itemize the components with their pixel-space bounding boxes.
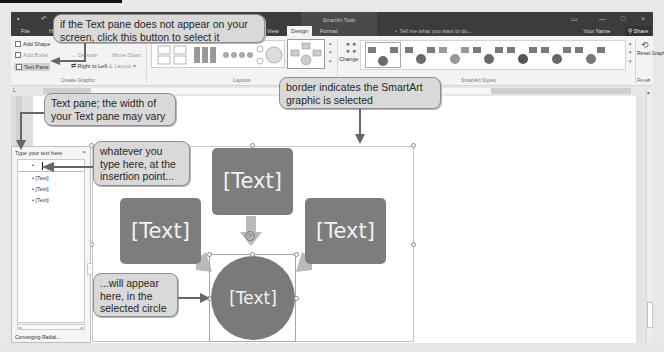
- callout-text-pane-width: Text pane; the width of your Text pane m…: [44, 93, 176, 126]
- callout-appear-here: ...will appear here, in the selected cir…: [93, 273, 178, 317]
- layouts-scroll[interactable]: ▴▾▾: [327, 39, 333, 66]
- scroll-up-icon[interactable]: ▴: [647, 89, 650, 95]
- layouts-gallery[interactable]: [151, 40, 285, 68]
- top-strip: [0, 0, 664, 10]
- right-to-left-button[interactable]: ⇄ Right to Left: [71, 63, 107, 69]
- tab-selector-icon[interactable]: L: [13, 87, 20, 94]
- layout-thumbnails-icon: [152, 41, 286, 69]
- text-pane-button[interactable]: Text Pane: [14, 63, 50, 71]
- style-item[interactable]: [439, 47, 471, 65]
- word-window: ▪ ↶ SmartArt Tools ▭ — □ × File H View D…: [0, 0, 664, 352]
- move-down-button[interactable]: ↓ Move Down: [108, 52, 141, 58]
- text-pane: Type your text here × • • [Text] • [Text…: [11, 146, 91, 343]
- ribbon-display-icon[interactable]: ▭: [571, 15, 578, 23]
- arrow-icon: [16, 140, 26, 150]
- scroll-right-icon[interactable]: ▸: [81, 325, 83, 330]
- arrow-icon: [200, 293, 210, 303]
- resize-handle[interactable]: [207, 252, 212, 257]
- add-bullet-button[interactable]: Add Bullet: [15, 52, 48, 58]
- reset-graphic-button[interactable]: ⟲ Reset Graphic: [637, 40, 653, 56]
- text-pane-item[interactable]: • [Text]: [32, 175, 49, 181]
- user-name[interactable]: Your Name: [583, 26, 610, 36]
- collapse-ribbon-icon[interactable]: ^: [647, 78, 649, 84]
- style-item[interactable]: [405, 47, 437, 65]
- layout-button[interactable]: ♙ Layout ▾: [108, 63, 136, 69]
- resize-handle[interactable]: [411, 143, 416, 148]
- converging-radial-thumbnail-icon: [288, 40, 324, 68]
- resize-handle[interactable]: [250, 252, 255, 257]
- smartart-center-circle[interactable]: [Text]: [211, 256, 295, 340]
- resize-handle[interactable]: [411, 242, 416, 247]
- close-text-pane-icon[interactable]: ×: [82, 149, 86, 155]
- group-label-create-graphic: Create Graphic: [61, 77, 95, 83]
- style-item[interactable]: [507, 47, 539, 65]
- layout-name: Converging Radial...: [15, 334, 60, 340]
- rotate-handle-icon[interactable]: ⟳: [245, 231, 255, 241]
- close-window-icon[interactable]: ×: [641, 15, 645, 22]
- smartart-box-top[interactable]: [Text]: [212, 148, 293, 215]
- style-item[interactable]: [365, 42, 401, 68]
- vertical-scrollbar[interactable]: ▴: [646, 87, 653, 343]
- maximize-icon[interactable]: □: [621, 15, 625, 22]
- scroll-left-icon[interactable]: ◂: [19, 325, 21, 330]
- text-pane-list[interactable]: • • [Text] • [Text] • [Text]: [17, 159, 85, 323]
- minimize-icon[interactable]: —: [599, 15, 606, 22]
- text-pane-hscroll[interactable]: ◂▸: [17, 324, 85, 330]
- add-shape-icon: [15, 41, 21, 47]
- tab-format[interactable]: Format: [316, 26, 341, 36]
- style-item[interactable]: [541, 47, 573, 65]
- bullet-icon: •: [32, 162, 34, 168]
- tab-design[interactable]: Design: [287, 26, 312, 36]
- resize-handle[interactable]: [294, 296, 299, 301]
- tab-file[interactable]: File: [17, 26, 34, 36]
- text-pane-icon: [16, 64, 22, 70]
- callout-text-pane-button: if the Text pane does not appear on your…: [53, 14, 265, 43]
- arrow-icon: [355, 134, 365, 144]
- group-label-smartart-styles: SmartArt Styles: [461, 77, 496, 83]
- scroll-thumb[interactable]: [647, 302, 653, 328]
- add-bullet-icon: [15, 52, 21, 58]
- undo-icon[interactable]: ↶: [41, 15, 50, 23]
- text-pane-toggle[interactable]: ›: [87, 263, 93, 275]
- text-pane-item[interactable]: • [Text]: [32, 197, 49, 203]
- smartart-box-right[interactable]: [Text]: [305, 198, 386, 264]
- group-label-layouts: Layouts: [233, 77, 251, 83]
- save-icon[interactable]: ▪: [17, 15, 26, 23]
- callout-type-here: whatever you type here, at the insertion…: [93, 141, 190, 186]
- reset-graphic-icon: ⟲: [637, 40, 653, 50]
- resize-handle[interactable]: [294, 252, 299, 257]
- style-item[interactable]: [473, 47, 505, 65]
- arrow-icon: [42, 162, 54, 172]
- smartart-styles-gallery[interactable]: [360, 40, 626, 70]
- text-pane-title: Type your text here: [15, 150, 62, 156]
- text-pane-item[interactable]: • [Text]: [32, 186, 49, 192]
- add-shape-button[interactable]: Add Shape: [15, 41, 50, 47]
- style-item[interactable]: [575, 47, 607, 65]
- smartart-box-left[interactable]: [Text]: [120, 198, 201, 264]
- tell-me-box[interactable]: ♀ Tell me what you want to do...: [394, 26, 472, 36]
- tab-view[interactable]: View: [263, 26, 283, 36]
- callout-border: border indicates the SmartArt graphic is…: [279, 77, 441, 109]
- converging-radial-layout[interactable]: [287, 39, 325, 69]
- styles-scroll[interactable]: ▴▾▾: [627, 39, 633, 66]
- share-button[interactable]: ⚲ Share: [625, 26, 651, 36]
- arrow-icon: [50, 57, 60, 65]
